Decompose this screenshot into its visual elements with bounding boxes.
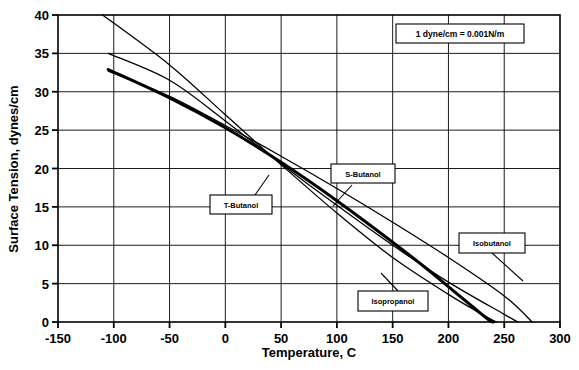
y-tick-labels: 0510152025303540 — [35, 8, 49, 330]
gridlines — [58, 15, 560, 322]
y-tick-label: 5 — [42, 277, 49, 292]
chart-canvas: -150-100-50050100150200250300 0510152025… — [0, 0, 579, 370]
curve-isobutanol — [108, 71, 532, 322]
x-tick-label: 250 — [493, 331, 515, 346]
unit-note-label: 1 dyne/cm = 0.001N/m — [416, 29, 505, 39]
x-tick-label: 50 — [274, 331, 288, 346]
y-tick-label: 10 — [35, 238, 49, 253]
callout-isobutanol: Isobutanol — [459, 233, 525, 281]
y-tick-label: 40 — [35, 8, 49, 23]
y-tick-label: 30 — [35, 85, 49, 100]
y-axis-title: Surface Tension, dynes/cm — [6, 85, 21, 252]
x-tick-label: 200 — [438, 331, 460, 346]
callout-t-butanol: T-Butanol — [210, 175, 272, 214]
y-tick-label: 20 — [35, 162, 49, 177]
x-tick-label: 150 — [382, 331, 404, 346]
isopropanol-label: Isopropanol — [372, 297, 415, 306]
y-tick-label: 15 — [35, 200, 49, 215]
isopropanol-leader — [381, 273, 398, 291]
isobutanol-leader — [492, 253, 523, 281]
x-tick-label: 300 — [549, 331, 571, 346]
callout-s-butanol: S-Butanol — [331, 164, 395, 206]
y-tick-label: 35 — [35, 46, 49, 61]
t-butanol-label: T-Butanol — [224, 201, 259, 210]
x-tick-label: -50 — [160, 331, 179, 346]
x-tick-label: 100 — [326, 331, 348, 346]
y-tick-label: 25 — [35, 123, 49, 138]
x-axis-title: Temperature, C — [262, 345, 357, 360]
x-tick-label: -150 — [45, 331, 71, 346]
y-tick-label: 0 — [42, 315, 49, 330]
callout-unit-note: 1 dyne/cm = 0.001N/m — [396, 24, 524, 43]
x-tick-labels: -150-100-50050100150200250300 — [45, 331, 571, 346]
curve-isopropanol — [108, 69, 493, 322]
isobutanol-label: Isobutanol — [473, 239, 511, 248]
surface-tension-chart: -150-100-50050100150200250300 0510152025… — [0, 0, 579, 370]
s-butanol-label: S-Butanol — [345, 170, 380, 179]
x-tick-label: 0 — [222, 331, 229, 346]
t-butanol-leader — [255, 175, 269, 195]
x-tick-label: -100 — [101, 331, 127, 346]
